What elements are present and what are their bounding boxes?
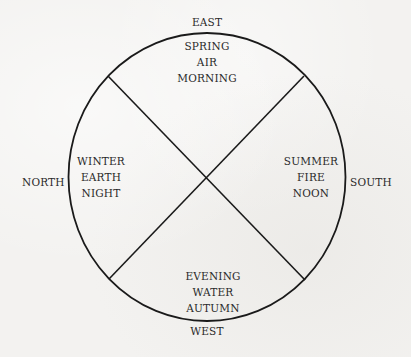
quadrant-element: WATER [185, 284, 240, 300]
quadrant-bottom-west: EVENING WATER AUTUMN [185, 268, 240, 316]
direction-label-north: NORTH [22, 174, 65, 190]
quadrant-time: NIGHT [77, 185, 125, 201]
quadrant-season: SUMMER [284, 153, 338, 169]
quadrant-season: SPRING [177, 38, 237, 54]
quadrant-element: EARTH [77, 169, 125, 185]
quadrant-season: WINTER [77, 153, 125, 169]
direction-label-west: WEST [190, 323, 223, 339]
quadrant-element: FIRE [284, 169, 338, 185]
quadrant-right-south: SUMMER FIRE NOON [284, 153, 338, 201]
compass-wheel-diagram: EAST NORTH SOUTH WEST SPRING AIR MORNING… [0, 0, 411, 357]
direction-label-south: SOUTH [350, 174, 392, 190]
direction-label-east: EAST [192, 14, 222, 30]
quadrant-season: AUTUMN [185, 300, 240, 316]
quadrant-time: NOON [284, 185, 338, 201]
quadrant-top-east: SPRING AIR MORNING [177, 38, 237, 86]
quadrant-left-north: WINTER EARTH NIGHT [77, 153, 125, 201]
quadrant-element: AIR [177, 54, 237, 70]
quadrant-time: MORNING [177, 70, 237, 86]
quadrant-time: EVENING [185, 268, 240, 284]
